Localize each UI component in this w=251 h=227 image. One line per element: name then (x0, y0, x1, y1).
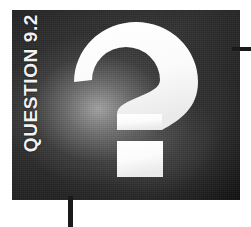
question-panel: QUESTION 9.2 (12, 10, 240, 200)
horizontal-leader-rule (232, 47, 251, 51)
question-mark-stem (117, 114, 162, 130)
question-mark-icon (12, 10, 240, 200)
figure-canvas: QUESTION 9.2 (0, 0, 251, 227)
question-mark-dot (117, 141, 163, 177)
question-mark-hook (74, 22, 198, 130)
vertical-leader-rule (68, 196, 73, 227)
question-label: QUESTION 9.2 (18, 14, 44, 196)
